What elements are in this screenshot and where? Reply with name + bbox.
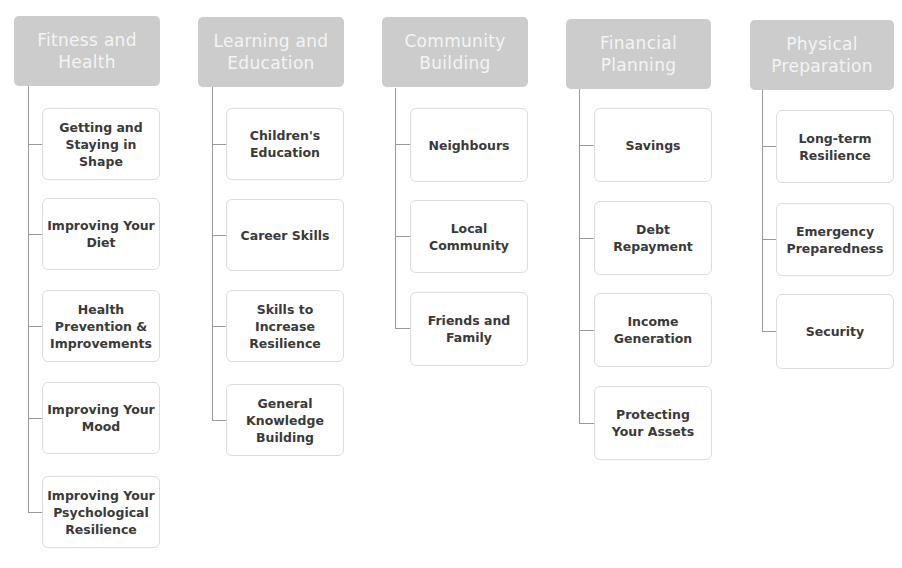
- connector-horizontal: [579, 145, 594, 146]
- category-learning-and-education: Learning and Education Children's Educat…: [198, 0, 348, 568]
- connector-horizontal: [212, 326, 226, 327]
- connector-vertical: [579, 89, 580, 424]
- connector-horizontal: [28, 418, 42, 419]
- topic-box: Security: [776, 294, 894, 369]
- connector-horizontal: [579, 330, 594, 331]
- connector-horizontal: [395, 144, 410, 145]
- connector-horizontal: [395, 236, 410, 237]
- category-financial-planning: Financial Planning Savings Debt Repaymen…: [566, 0, 716, 568]
- connector-horizontal: [28, 326, 42, 327]
- category-community-building: Community Building Neighbours Local Comm…: [382, 0, 532, 568]
- connector-horizontal: [28, 512, 42, 513]
- topic-box: Children's Education: [226, 108, 344, 180]
- topic-box: Health Prevention & Improvements: [42, 290, 160, 362]
- connector-horizontal: [28, 234, 42, 235]
- connector-horizontal: [579, 238, 594, 239]
- topic-box: Protecting Your Assets: [594, 386, 712, 460]
- connector-vertical: [212, 87, 213, 421]
- topic-box: General Knowledge Building: [226, 384, 344, 456]
- topic-box: Long-term Resilience: [776, 110, 894, 183]
- topic-box: Local Community: [410, 200, 528, 273]
- category-header: Fitness and Health: [14, 16, 160, 86]
- topic-box: Savings: [594, 108, 712, 182]
- category-header: Physical Preparation: [750, 20, 894, 90]
- topic-box: Friends and Family: [410, 292, 528, 366]
- connector-horizontal: [212, 144, 226, 145]
- category-fitness-and-health: Fitness and Health Getting and Staying i…: [14, 0, 164, 568]
- connector-vertical: [762, 90, 763, 332]
- topic-box: Improving Your Diet: [42, 198, 160, 270]
- connector-horizontal: [212, 235, 226, 236]
- connector-horizontal: [212, 420, 226, 421]
- topic-box: Skills to Increase Resilience: [226, 290, 344, 362]
- connector-horizontal: [579, 423, 594, 424]
- connector-vertical: [28, 86, 29, 513]
- topic-box: Debt Repayment: [594, 201, 712, 275]
- topic-box: Improving Your Mood: [42, 382, 160, 454]
- topic-box: Improving Your Psychological Resilience: [42, 476, 160, 548]
- topic-box: Getting and Staying in Shape: [42, 108, 160, 180]
- category-header: Community Building: [382, 17, 528, 87]
- connector-horizontal: [762, 146, 776, 147]
- topic-box: Neighbours: [410, 108, 528, 182]
- connector-horizontal: [762, 331, 776, 332]
- topic-box: Career Skills: [226, 199, 344, 271]
- category-physical-preparation: Physical Preparation Long-term Resilienc…: [750, 0, 900, 568]
- topic-box: Income Generation: [594, 293, 712, 367]
- topic-box: Emergency Preparedness: [776, 203, 894, 276]
- connector-horizontal: [395, 328, 410, 329]
- category-header: Financial Planning: [566, 19, 711, 89]
- connector-horizontal: [28, 144, 42, 145]
- connector-vertical: [395, 88, 396, 329]
- connector-horizontal: [762, 239, 776, 240]
- category-header: Learning and Education: [198, 17, 344, 87]
